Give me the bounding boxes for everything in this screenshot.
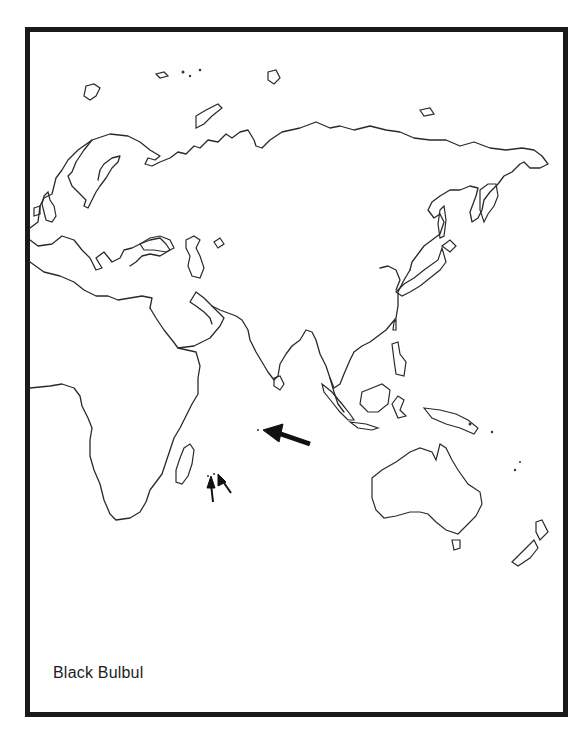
borneo [360, 384, 390, 412]
australia [372, 444, 482, 534]
new-guinea [424, 408, 478, 434]
eurasia-north-coast [30, 122, 548, 270]
caspian-sea [186, 236, 204, 278]
new-siberian-islands [420, 108, 434, 116]
severnaya-zemlya [268, 70, 280, 84]
malay-peninsula [330, 378, 344, 412]
africa-east-arabia [150, 292, 224, 348]
small-arrow-icon [207, 476, 215, 502]
aral-sea [214, 238, 224, 248]
scandinavia [68, 140, 120, 208]
world-map [0, 0, 581, 740]
japan-honshu [396, 248, 446, 296]
svalbard [84, 84, 100, 100]
africa-west-south [30, 348, 200, 520]
mediterranean-north [30, 236, 170, 270]
north-africa-coast [30, 262, 152, 308]
kamchatka [480, 184, 498, 222]
novaya-zemlya [196, 104, 222, 128]
java [350, 422, 378, 430]
sulawesi [392, 396, 406, 418]
hokkaido [442, 240, 456, 252]
tasmania [452, 540, 460, 550]
new-zealand-south [512, 540, 538, 566]
large-arrow-icon [263, 424, 310, 444]
korea [380, 266, 400, 290]
great-britain [42, 192, 56, 222]
franz-josef-land [156, 72, 168, 78]
sakhalin [438, 206, 446, 238]
philippines [392, 342, 406, 376]
small-arrow-icon [218, 474, 231, 493]
madagascar [176, 444, 194, 484]
sri-lanka [274, 376, 284, 390]
new-zealand-north [536, 520, 548, 540]
south-asia-coast [212, 270, 410, 388]
map-title: Black Bulbul [53, 664, 143, 682]
